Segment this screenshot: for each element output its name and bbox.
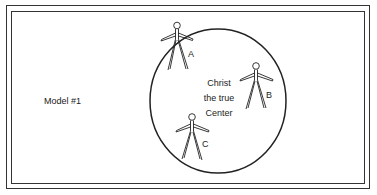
- center-label-line-2: the true: [196, 91, 242, 106]
- stick-figure-b: [240, 63, 273, 109]
- center-label-line-1: Christ: [196, 76, 242, 91]
- stick-figure-a: [161, 22, 193, 70]
- center-label-line-3: Center: [196, 106, 242, 121]
- model-label: Model #1: [44, 96, 81, 106]
- center-label: Christ the true Center: [196, 76, 242, 121]
- figure-label-a: A: [188, 50, 194, 59]
- figure-label-c: C: [202, 140, 209, 149]
- figure-label-b: B: [266, 91, 272, 100]
